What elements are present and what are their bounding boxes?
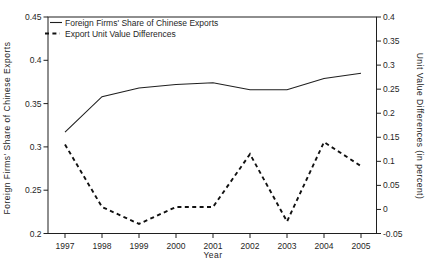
left-tick-label: 0.35 xyxy=(25,99,42,109)
legend-label-unit-value: Export Unit Value Differences xyxy=(65,29,176,39)
right-axis-ticks: 0.40.350.30.250.20.150.10.050-0.05 xyxy=(377,12,403,239)
right-tick-label: 0.4 xyxy=(383,12,395,22)
left-tick-label: 0.25 xyxy=(25,185,42,195)
x-tick-label: 1998 xyxy=(93,241,112,251)
right-tick-label: 0.1 xyxy=(383,156,395,166)
x-tick-label: 1997 xyxy=(56,241,75,251)
x-axis-title: Year xyxy=(203,250,222,260)
left-axis-title: Foreign Firms' Share of Chinese Exports xyxy=(2,42,12,215)
legend-label-foreign-share: Foreign Firms' Share of Chinese Exports xyxy=(65,18,218,28)
left-tick-label: 0.2 xyxy=(30,229,42,239)
right-axis-title: Unit Value Differences (in percent) xyxy=(415,53,425,200)
right-tick-label: 0.35 xyxy=(383,36,400,46)
x-tick-label: 1999 xyxy=(130,241,149,251)
legend: Foreign Firms' Share of Chinese Exports … xyxy=(45,18,218,39)
right-tick-label: 0.05 xyxy=(383,180,400,190)
x-axis-ticks: 199719981999200020012002200320042005 xyxy=(56,234,371,252)
left-axis-ticks: 0.450.40.350.30.250.2 xyxy=(25,12,48,239)
x-tick-label: 2003 xyxy=(278,241,297,251)
x-tick-label: 2005 xyxy=(352,241,371,251)
x-tick-label: 2000 xyxy=(167,241,186,251)
right-tick-label: 0.3 xyxy=(383,60,395,70)
unit-value-differences-line xyxy=(65,142,361,224)
foreign-share-line xyxy=(65,73,361,132)
plot-frame xyxy=(48,17,377,234)
left-tick-label: 0.45 xyxy=(25,12,42,22)
x-tick-label: 2004 xyxy=(315,241,334,251)
right-tick-label: 0.15 xyxy=(383,132,400,142)
left-tick-label: 0.3 xyxy=(30,142,42,152)
right-tick-label: 0 xyxy=(383,204,388,214)
right-tick-label: 0.25 xyxy=(383,84,400,94)
x-tick-label: 2002 xyxy=(241,241,260,251)
chart-figure: 0.450.40.350.30.250.2 0.40.350.30.250.20… xyxy=(0,0,430,276)
chart-canvas: 0.450.40.350.30.250.2 0.40.350.30.250.20… xyxy=(0,0,430,276)
right-tick-label: -0.05 xyxy=(383,229,403,239)
right-tick-label: 0.2 xyxy=(383,108,395,118)
left-tick-label: 0.4 xyxy=(30,55,42,65)
